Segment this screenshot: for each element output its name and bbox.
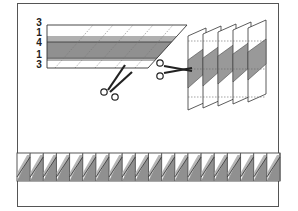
scissors-icon [157,60,192,79]
diagram-canvas [0,0,298,211]
scissors-icon [101,65,132,100]
parallelogram-stack [188,20,266,110]
sawtooth-border [17,153,280,181]
strip-set [47,25,187,68]
